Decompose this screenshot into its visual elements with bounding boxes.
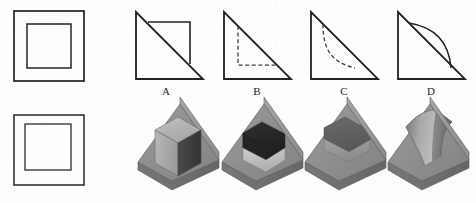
lower-square-view — [14, 115, 84, 185]
option-c-hidden-curve — [323, 24, 355, 68]
figure-canvas: A B C D — [0, 0, 476, 203]
option-d-label: D — [427, 85, 435, 97]
option-a-label: A — [162, 85, 170, 97]
option-a-square-overlay — [148, 22, 190, 64]
option-a[interactable]: A — [136, 12, 203, 97]
lower-square-inner — [25, 124, 71, 170]
orthographic-views-group — [14, 11, 84, 185]
option-b-label: B — [253, 85, 260, 97]
solid-wedge-with-protruding-cube[interactable] — [138, 97, 219, 190]
option-b-triangle — [224, 12, 291, 79]
option-c-triangle — [311, 12, 378, 79]
solid-wedge-with-deep-recess[interactable] — [222, 97, 303, 190]
option-c-label: C — [340, 85, 347, 97]
solid-wedge-with-shallow-pocket[interactable] — [305, 97, 386, 190]
option-c[interactable]: C — [311, 12, 378, 97]
option-d-triangle — [398, 12, 465, 79]
upper-square-view — [14, 11, 84, 81]
option-b[interactable]: B — [224, 12, 291, 97]
solid-wedge-with-curved-recess[interactable] — [388, 97, 469, 190]
upper-square-outer — [14, 11, 84, 81]
option-d[interactable]: D — [398, 12, 465, 97]
figure-svg: A B C D — [0, 0, 476, 203]
upper-square-inner — [27, 24, 71, 68]
